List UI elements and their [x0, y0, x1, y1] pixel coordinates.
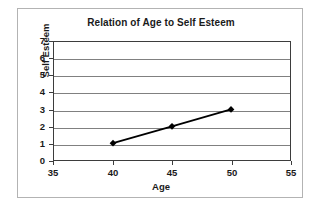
x-axis-tick-mark — [232, 161, 233, 165]
y-axis-tick-label: 2 — [29, 122, 45, 132]
y-axis-tick-label: 3 — [29, 105, 45, 115]
data-point-marker — [228, 106, 235, 113]
data-series-layer — [54, 42, 290, 160]
y-axis-tick-label: 0 — [29, 156, 45, 166]
x-axis-title: Age — [18, 181, 304, 192]
x-axis-tick-mark — [113, 161, 114, 165]
y-axis-tick-label: 7 — [29, 36, 45, 46]
x-axis-tick-label: 45 — [157, 168, 187, 178]
plot-area — [53, 41, 291, 161]
x-axis-tick-label: 50 — [217, 168, 247, 178]
y-axis-tick-label: 1 — [29, 139, 45, 149]
data-point-marker — [110, 140, 117, 147]
y-axis-tick-label: 5 — [29, 70, 45, 80]
y-axis-tick-label: 6 — [29, 53, 45, 63]
y-axis-tick-label: 4 — [29, 87, 45, 97]
x-axis-tick-mark — [53, 161, 54, 165]
x-axis-tick-mark — [172, 161, 173, 165]
x-axis-tick-mark — [291, 161, 292, 165]
chart-frame: Relation of Age to Self Esteem Self Este… — [17, 8, 303, 198]
chart-title: Relation of Age to Self Esteem — [18, 17, 304, 28]
data-point-marker — [169, 123, 176, 130]
x-axis-tick-label: 35 — [38, 168, 68, 178]
x-axis-tick-label: 40 — [98, 168, 128, 178]
x-axis-tick-label: 55 — [276, 168, 306, 178]
